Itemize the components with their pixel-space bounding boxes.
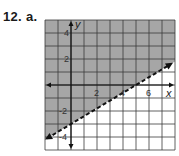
y-tick-label: -4: [59, 132, 67, 142]
y-tick-label: 4: [64, 28, 69, 38]
y-tick-label: 2: [64, 54, 69, 64]
x-tick-label: 2: [94, 88, 99, 98]
x-tick-label: 6: [146, 88, 151, 98]
x-axis-label: x: [165, 87, 172, 99]
inequality-graph: 2 4 6 4 2 -2 -4 x y: [0, 0, 179, 156]
y-tick-label: -2: [59, 106, 67, 116]
x-tick-label: 4: [120, 88, 125, 98]
